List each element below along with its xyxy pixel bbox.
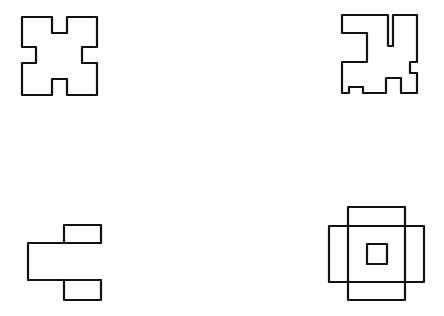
shape-top-left-notched-square [22, 17, 97, 95]
vertical-rect [348, 207, 405, 300]
shape-bottom-right-overlap [329, 207, 424, 300]
bracket-bottom-rect [64, 280, 101, 300]
bracket-middle-open-rect [28, 243, 101, 280]
bracket-top-rect [64, 225, 101, 243]
shape-bottom-left-bracket [28, 225, 101, 300]
figure-canvas [0, 0, 444, 316]
shape-top-right-irregular-square [342, 15, 417, 93]
inner-square [367, 244, 387, 264]
horizontal-rect [329, 226, 424, 282]
